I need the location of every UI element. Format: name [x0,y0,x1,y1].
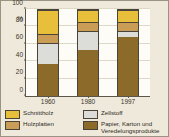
bar-segment-papier-1980 [78,50,98,96]
y-tick-60: 60 [16,34,26,41]
legend-swatch-zellstoff [83,110,98,119]
y-tick-20: 20 [16,69,26,76]
x-tick-1980: 1980 [81,99,95,106]
legend-item-schnittholz: Schnittholz [5,109,83,120]
bar-segment-zellstoff-1980 [78,31,98,51]
legend-label-schnittholz: Schnittholz [23,109,53,116]
legend-swatch-schnittholz [5,110,20,119]
y-tick-80: 80 [16,17,26,24]
bar-segment-schnittholz-1980 [78,10,98,22]
plot-area: % 100 80 60 40 20 0 196019801997 [25,9,150,97]
chart-legend: Schnittholz Zellstoff Holzplatten Papier… [5,109,166,135]
x-tickmark-1960 [48,96,49,98]
bar-segment-holzplatten-1960 [38,34,58,43]
bar-segment-holzplatten-1980 [78,22,98,31]
legend-item-zellstoff: Zellstoff [83,109,166,120]
y-tick-0: 0 [19,86,26,93]
legend-item-holzplatten: Holzplatten [5,120,83,135]
bar-segment-papier-1960 [38,64,58,96]
bar-segment-zellstoff-1960 [38,43,58,65]
x-tick-1997: 1997 [121,99,135,106]
chart-figure: % 100 80 60 40 20 0 196019801997 Schnitt… [0,0,169,137]
legend-label-holzplatten: Holzplatten [23,120,54,127]
y-tick-40: 40 [16,51,26,58]
bar-segment-schnittholz-1997 [118,10,138,22]
legend-label-zellstoff: Zellstoff [101,109,123,116]
x-tickmark-1997 [128,96,129,98]
bar-segment-schnittholz-1960 [38,10,58,34]
x-tick-1960: 1960 [41,99,55,106]
legend-swatch-papier [83,121,98,130]
legend-label-papier: Papier, Karton und Veredelungsprodukte [101,120,166,134]
bar-segment-holzplatten-1997 [118,22,138,31]
legend-item-papier: Papier, Karton und Veredelungsprodukte [83,120,166,135]
x-tickmark-1980 [88,96,89,98]
y-tick-100: 100 [12,0,26,6]
legend-swatch-holzplatten [5,121,20,130]
bar-1997 [117,9,139,96]
bar-1960 [37,9,59,96]
bar-1980 [77,9,99,96]
bar-segment-papier-1997 [118,37,138,96]
